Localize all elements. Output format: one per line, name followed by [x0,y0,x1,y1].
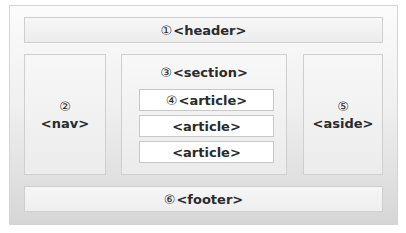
article-box: <article> [139,115,274,137]
article-label: <article> [172,144,241,161]
footer-box: ⑥ <footer> [24,186,383,212]
nav-label: <nav> [41,115,89,132]
footer-label: <footer> [176,191,243,208]
aside-box: ⑤ <aside> [303,54,383,175]
article-label: <article> [179,92,248,109]
article-box: ④<article> [139,89,274,111]
article-number: ④ [166,92,178,109]
section-title: ③<section> [122,64,286,81]
header-label: <header> [173,22,246,39]
aside-number: ⑤ [337,98,349,115]
section-number: ③ [160,65,172,80]
nav-number: ② [59,98,71,115]
section-box: ③<section> ④<article> <article> <article… [121,54,287,175]
article-label: <article> [172,118,241,135]
section-label: <section> [173,65,248,80]
article-box: <article> [139,141,274,163]
footer-number: ⑥ [164,191,176,208]
aside-label: <aside> [313,115,374,132]
header-number: ① [161,22,173,39]
nav-box: ② <nav> [24,54,106,175]
header-box: ① <header> [24,17,383,43]
